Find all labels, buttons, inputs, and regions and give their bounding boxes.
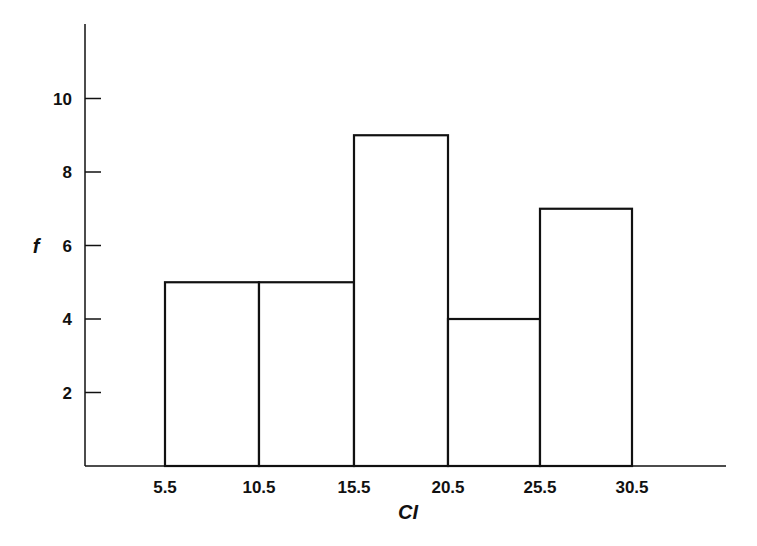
y-tick-label: 2 (63, 384, 72, 403)
x-tick-label: 30.5 (615, 478, 648, 497)
y-tick-label: 6 (63, 237, 72, 256)
x-axis-label: CI (398, 501, 418, 523)
y-axis-label: f (33, 235, 42, 257)
y-ticks-group: 246810 (53, 90, 101, 403)
bars-group (165, 135, 632, 466)
histogram-bar (540, 209, 632, 466)
x-tick-label: 10.5 (242, 478, 275, 497)
y-tick-label: 8 (63, 163, 72, 182)
histogram-bar (448, 319, 540, 466)
x-tick-label: 15.5 (337, 478, 370, 497)
histogram-chart: 246810 5.510.515.520.525.530.5 f CI (0, 0, 757, 546)
y-tick-label: 10 (53, 90, 72, 109)
histogram-bar (165, 282, 259, 466)
x-tick-label: 20.5 (431, 478, 464, 497)
x-tick-label: 25.5 (523, 478, 556, 497)
x-ticks-group: 5.510.515.520.525.530.5 (153, 478, 648, 497)
histogram-bar (354, 135, 448, 466)
y-tick-label: 4 (63, 310, 73, 329)
x-tick-label: 5.5 (153, 478, 177, 497)
histogram-bar (259, 282, 354, 466)
